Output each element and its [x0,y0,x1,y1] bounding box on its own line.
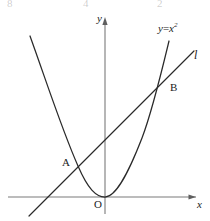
point-label-b: B [170,82,177,93]
y-axis-arrowhead [102,17,107,25]
y-axis-label: y [97,13,102,24]
curve-equation-exponent: 2 [174,21,178,29]
point-label-a: A [62,157,70,168]
parabola-curve [30,36,169,197]
secant-line-l [29,51,194,216]
figure-container: 8 4 2 y x O y=x2 l A B [0,0,210,221]
x-axis-arrowhead [189,194,197,199]
origin-label: O [94,199,102,210]
line-label-l: l [194,49,197,61]
x-axis-label: x [197,199,202,210]
figure-drawing [0,0,210,221]
y-axis [102,17,107,214]
curve-equation-label: y=x2 [158,22,178,34]
